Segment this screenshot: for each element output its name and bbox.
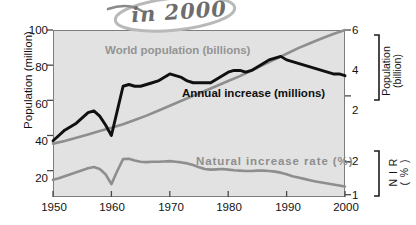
chart-figure: 100 80 60 40 20 Population (million) 6 4… xyxy=(0,0,416,225)
xtick-2000: 2000 xyxy=(324,202,368,214)
xtick-1950: 1950 xyxy=(32,202,76,214)
xtick-1960: 1960 xyxy=(90,202,134,214)
xtick-1970: 1970 xyxy=(149,202,193,214)
ytick-right-6: 6 xyxy=(352,25,372,37)
series-label-world-population: World population (billions) xyxy=(105,45,250,57)
ytick-right-2: 2 xyxy=(352,105,372,117)
left-axis-title: Population (million) xyxy=(22,10,34,150)
axis-brackets xyxy=(374,35,379,196)
right-upper-bracket xyxy=(374,35,379,100)
ytick-nir-1: 1 xyxy=(352,190,372,202)
ytick-left-20: 20 xyxy=(18,173,48,185)
right-upper-axis-title-line2: (billion) xyxy=(391,54,403,88)
right-lower-bracket xyxy=(374,151,379,196)
ytick-nir-2: 2 xyxy=(352,156,372,168)
ytick-right-4: 4 xyxy=(352,65,372,77)
series-label-annual-increase: Annual increase (millions) xyxy=(182,88,325,100)
series-label-natural-increase-rate: Natural increase rate (%) xyxy=(196,156,353,168)
right-lower-axis-title: N I R ( % ) xyxy=(388,144,410,200)
xtick-1980: 1980 xyxy=(207,202,251,214)
right-lower-axis-title-line2: ( % ) xyxy=(398,158,410,185)
xtick-1990: 1990 xyxy=(266,202,310,214)
handwritten-annotation: in 2000 xyxy=(130,0,228,27)
right-upper-axis-title: Population (billion) xyxy=(381,26,403,116)
